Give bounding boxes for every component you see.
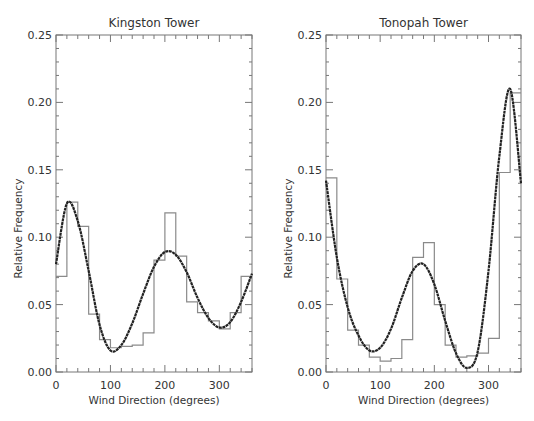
y-tick-label: 0.05 (28, 299, 53, 312)
y-tick-label: 0.25 (28, 29, 53, 42)
chart-title: Kingston Tower (109, 16, 200, 30)
y-tick-label: 0.10 (28, 231, 53, 244)
plot-frame (326, 35, 521, 372)
chart-canvas: 0.000.050.100.150.200.250100200300Kingst… (0, 0, 534, 421)
y-tick-label: 0.20 (298, 96, 323, 109)
y-tick-label: 0.25 (298, 29, 323, 42)
y-tick-label: 0.10 (298, 231, 323, 244)
y-tick-label: 0.20 (28, 96, 53, 109)
x-tick-label: 100 (370, 379, 391, 392)
x-tick-label: 200 (154, 379, 175, 392)
y-tick-label: 0.00 (298, 366, 323, 379)
histogram-series (56, 202, 252, 348)
x-axis-label: Wind Direction (degrees) (89, 394, 220, 406)
x-tick-label: 0 (53, 379, 60, 392)
x-tick-label: 300 (209, 379, 230, 392)
y-axis-label: Relative Frequency (282, 179, 294, 279)
x-tick-label: 200 (424, 379, 445, 392)
chart-title: Tonopah Tower (378, 16, 468, 30)
x-tick-label: 0 (323, 379, 330, 392)
x-axis-label: Wind Direction (degrees) (358, 394, 489, 406)
y-axis-label: Relative Frequency (12, 179, 24, 279)
x-tick-label: 100 (100, 379, 121, 392)
y-tick-label: 0.15 (298, 164, 323, 177)
tonopah-chart: 0.000.050.100.150.200.250100200300Tonopa… (282, 16, 521, 406)
y-tick-label: 0.15 (28, 164, 53, 177)
kingston-chart: 0.000.050.100.150.200.250100200300Kingst… (12, 16, 252, 406)
x-tick-label: 300 (478, 379, 499, 392)
y-tick-label: 0.00 (28, 366, 53, 379)
fitted-curve-series (326, 89, 521, 368)
y-tick-label: 0.05 (298, 299, 323, 312)
